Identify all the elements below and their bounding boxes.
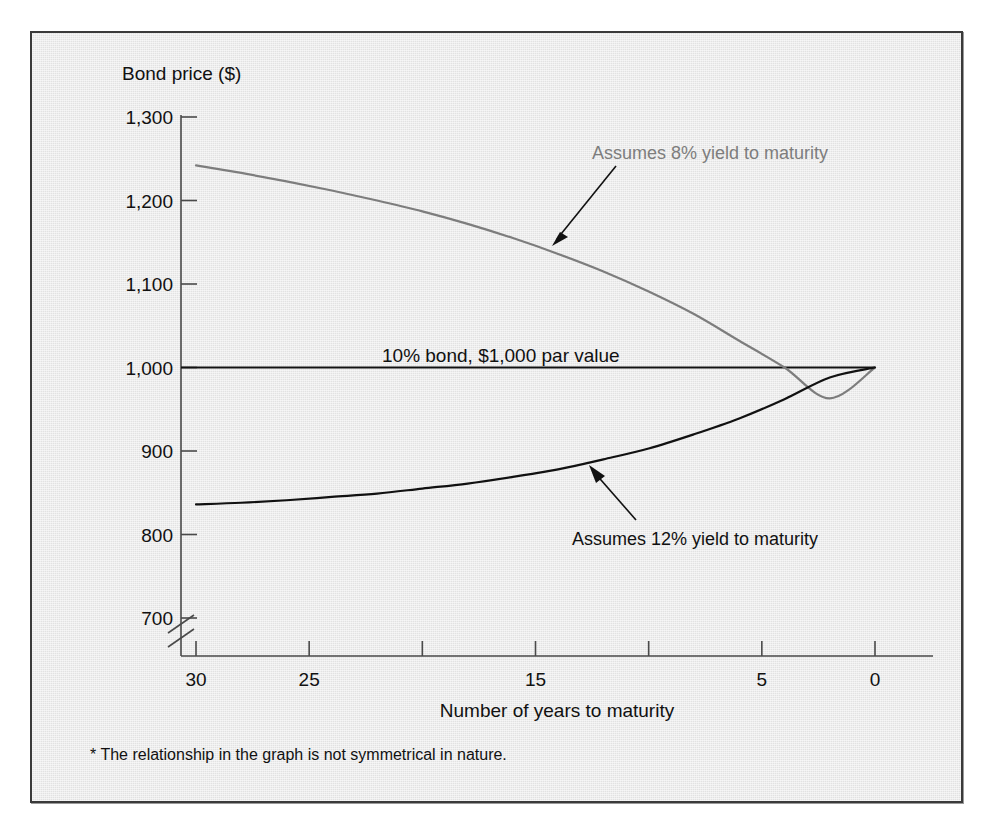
- x-axis-tick-label: 0: [870, 669, 881, 690]
- annotation-12-percent-group: Assumes 12% yield to maturity: [572, 465, 818, 549]
- par-value-label: 10% bond, $1,000 par value: [382, 345, 620, 366]
- bond-price-chart: Bond price ($) 1,3001,2001,1001,00090080…: [32, 33, 961, 801]
- x-axis-ticks-group: 30251550: [185, 641, 880, 690]
- annotation-8-percent-group: Assumes 8% yield to maturity: [552, 143, 828, 246]
- y-axis-tick-label: 700: [141, 608, 173, 629]
- annotation-8-percent-arrow-head: [552, 232, 568, 246]
- y-axis-tick-label: 1,300: [125, 107, 173, 128]
- y-axis-tick-label: 800: [141, 525, 173, 546]
- x-axis-tick-label: 30: [185, 669, 206, 690]
- y-axis-tick-label: 1,000: [125, 358, 173, 379]
- annotation-12-percent-label: Assumes 12% yield to maturity: [572, 529, 818, 549]
- figure-footnote: * The relationship in the graph is not s…: [90, 746, 507, 763]
- x-axis-title: Number of years to maturity: [440, 700, 675, 721]
- annotation-12-percent-arrow-head: [589, 465, 605, 483]
- y-axis-tick-label: 1,100: [125, 274, 173, 295]
- figure-frame: Bond price ($) 1,3001,2001,1001,00090080…: [30, 31, 963, 803]
- x-axis-tick-label: 15: [525, 669, 546, 690]
- annotation-8-percent-label: Assumes 8% yield to maturity: [592, 143, 828, 163]
- page-root: Bond price ($) 1,3001,2001,1001,00090080…: [0, 0, 991, 832]
- series-line-12-percent: [196, 368, 875, 505]
- y-axis-title-group: Bond price ($): [122, 63, 241, 84]
- x-axis-tick-label: 25: [299, 669, 320, 690]
- annotation-8-percent-arrow-line: [557, 166, 616, 239]
- y-axis-tick-label: 900: [141, 441, 173, 462]
- x-axis-tick-label: 5: [757, 669, 768, 690]
- y-axis-tick-label: 1,200: [125, 191, 173, 212]
- y-axis-title: Bond price ($): [122, 63, 241, 84]
